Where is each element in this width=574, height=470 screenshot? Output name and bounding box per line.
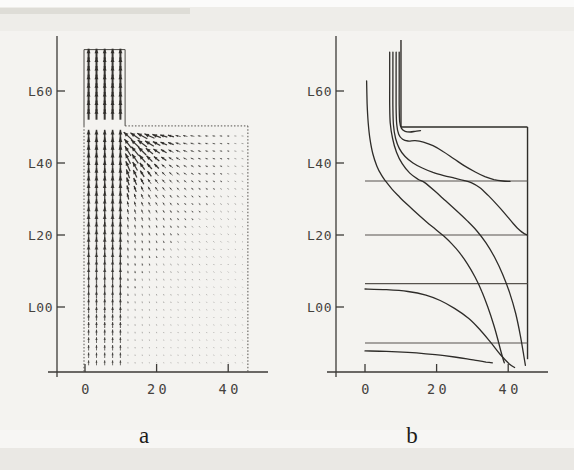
y-tick-label: L60 [28, 84, 53, 99]
x-tick-label: 0 [361, 381, 373, 397]
figure-canvas: L60L40L20L0002040 L60L40L20L0002040 [0, 0, 574, 470]
streamline-c6 [365, 351, 492, 363]
panel-b-streamlines: L60L40L20L0002040 [307, 36, 548, 397]
streamline-s1 [367, 81, 505, 363]
horizontal-streamlines [365, 181, 528, 343]
streamline-v4 [399, 52, 420, 132]
x-tick-label: 0 [81, 381, 93, 397]
y-tick-label: L60 [307, 84, 332, 99]
panel-b-caption: b [392, 423, 432, 449]
streamline-v1 [390, 52, 526, 365]
panel-a-vector-field: L60L40L20L0002040 [28, 36, 268, 397]
x-tick-label: 20 [147, 381, 170, 397]
axes: L60L40L20L0002040 [28, 36, 268, 397]
y-tick-label: L00 [28, 300, 53, 315]
panel-a-caption: a [124, 423, 164, 449]
y-tick-label: L40 [307, 156, 332, 171]
y-tick-label: L00 [307, 300, 332, 315]
x-tick-label: 40 [499, 381, 522, 397]
y-tick-label: L20 [307, 228, 332, 243]
domain-boundary [84, 50, 248, 372]
domain-boundary [401, 40, 528, 359]
streamline-v2 [393, 52, 528, 235]
curved-streamlines [365, 52, 528, 367]
vector-field [87, 49, 244, 366]
streamline-v3 [396, 52, 510, 181]
x-tick-label: 40 [219, 381, 242, 397]
x-tick-label: 20 [427, 381, 450, 397]
y-tick-label: L20 [28, 228, 53, 243]
y-tick-label: L40 [28, 156, 53, 171]
